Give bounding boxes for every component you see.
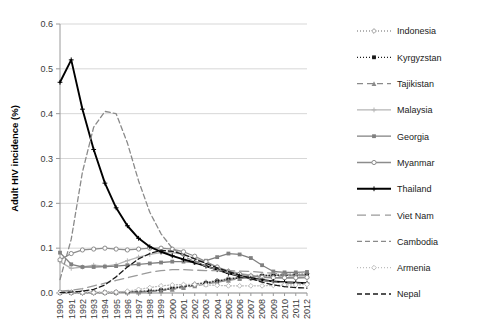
legend-label-indonesia: Indonesia [397,26,436,36]
marker-georgia [114,264,118,268]
marker-armenia [226,283,231,288]
x-tick-label-2006: 2006 [235,299,245,319]
series-group [58,57,310,294]
x-tick-label-1992: 1992 [78,299,88,319]
marker-legend-myanmar [372,160,376,164]
legend-item-georgia[interactable]: Georgia [357,132,429,142]
marker-georgia [238,253,242,257]
x-tick-label-1994: 1994 [100,299,110,319]
marker-georgia [159,261,163,265]
x-tick-labels-group: 1990199119921993199419951996199719981999… [55,293,312,319]
legend-item-kyrgyzstan[interactable]: Kyrgyzstan [357,53,442,63]
x-tick-label-2000: 2000 [168,299,178,319]
legend-item-indonesia[interactable]: Indonesia [357,26,436,36]
legend-label-georgia: Georgia [397,132,429,142]
legend-item-malaysia[interactable]: Malaysia [357,105,433,115]
marker-georgia [148,262,152,266]
marker-myanmar [92,247,96,251]
y-tick-label: 0.3 [40,154,53,164]
x-tick-label-1998: 1998 [145,299,155,319]
x-tick-label-1995: 1995 [112,299,122,319]
marker-myanmar [69,251,73,255]
y-axis-title-group: Adult HIV incidence (%) [9,105,20,212]
marker-georgia [170,260,174,264]
marker-georgia [249,256,253,260]
x-tick-label-1990: 1990 [55,299,65,319]
marker-legend-indonesia [372,29,377,34]
y-tick-label: 0.6 [40,19,53,29]
legend-item-nepal[interactable]: Nepal [357,289,421,299]
x-tick-label-2011: 2011 [291,299,301,318]
marker-georgia [137,262,141,266]
y-tick-labels-group: 0.00.10.20.30.40.50.6 [40,19,60,298]
chart-canvas: 0.00.10.20.30.40.50.6Adult HIV incidence… [0,0,486,332]
y-tick-label: 0.2 [40,199,53,209]
y-tick-label: 0.4 [40,109,53,119]
marker-armenia [260,283,265,288]
x-tick-label-2003: 2003 [201,299,211,319]
x-tick-label-2001: 2001 [179,299,189,319]
legend-item-thailand[interactable]: Thailand [357,184,432,194]
y-axis-title: Adult HIV incidence (%) [9,105,20,212]
marker-myanmar [181,250,185,254]
marker-georgia [294,270,298,274]
x-tick-label-2007: 2007 [246,299,256,319]
marker-myanmar [305,275,309,279]
marker-myanmar [114,247,118,251]
marker-armenia [147,285,152,290]
y-tick-label: 0.5 [40,64,53,74]
legend-item-myanmar[interactable]: Myanmar [357,158,435,168]
x-tick-label-2004: 2004 [213,299,223,319]
x-tick-label-2002: 2002 [190,299,200,319]
legend-label-viet-nam: Viet Nam [397,211,434,221]
marker-armenia [248,283,253,288]
marker-legend-georgia [372,134,376,138]
marker-georgia [215,255,219,259]
x-tick-label-1996: 1996 [123,299,133,319]
marker-georgia [81,265,85,269]
marker-georgia [103,265,107,269]
x-tick-label-1999: 1999 [156,299,166,319]
x-tick-label-2009: 2009 [269,299,279,319]
marker-myanmar [103,246,107,250]
marker-georgia [69,262,73,266]
x-tick-label-1991: 1991 [67,299,77,319]
legend-label-malaysia: Malaysia [397,105,433,115]
marker-myanmar [125,248,129,252]
legend-label-armenia: Armenia [397,263,431,273]
marker-legend-armenia [372,265,377,270]
marker-georgia [58,251,62,255]
legend-item-armenia[interactable]: Armenia [357,263,431,273]
marker-myanmar [282,276,286,280]
y-tick-label: 0.0 [40,288,53,298]
legend-label-kyrgyzstan: Kyrgyzstan [397,53,442,63]
legend-label-cambodia: Cambodia [397,237,438,247]
x-tick-label-2012: 2012 [302,299,312,319]
legend-label-tajikistan: Tajikistan [397,79,434,89]
marker-armenia [237,283,242,288]
marker-georgia [260,263,264,267]
legend-item-viet-nam[interactable]: Viet Nam [357,211,434,221]
x-tick-label-1997: 1997 [134,299,144,319]
x-tick-label-2010: 2010 [280,299,290,319]
legend: IndonesiaKyrgyzstanTajikistanMalaysiaGeo… [357,26,442,299]
x-tick-label-2005: 2005 [224,299,234,319]
y-tick-label: 0.1 [40,243,53,253]
marker-legend-kyrgyzstan [372,55,376,59]
marker-myanmar [136,247,140,251]
legend-label-nepal: Nepal [397,289,421,299]
marker-myanmar [58,258,62,262]
hiv-incidence-chart: 0.00.10.20.30.40.50.6Adult HIV incidence… [0,0,486,332]
legend-item-cambodia[interactable]: Cambodia [357,237,438,247]
x-tick-label-2008: 2008 [257,299,267,319]
marker-myanmar [80,248,84,252]
legend-label-thailand: Thailand [397,184,432,194]
marker-georgia [227,252,231,256]
marker-armenia [159,283,164,288]
legend-label-myanmar: Myanmar [397,158,435,168]
x-tick-label-1993: 1993 [89,299,99,319]
marker-georgia [92,265,96,269]
marker-myanmar [294,276,298,280]
marker-georgia [305,270,309,274]
legend-item-tajikistan[interactable]: Tajikistan [357,79,434,89]
